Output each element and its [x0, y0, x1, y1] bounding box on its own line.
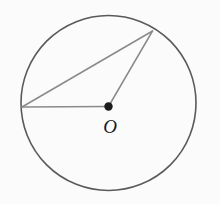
radius-segment-left	[22, 107, 109, 108]
center-point-label: O	[103, 117, 117, 136]
radius-segment-upper-right	[109, 31, 153, 107]
chord-segment	[22, 31, 153, 107]
geometry-canvas	[0, 0, 220, 204]
center-point-dot	[104, 102, 112, 110]
geometry-figure: O	[0, 0, 220, 204]
